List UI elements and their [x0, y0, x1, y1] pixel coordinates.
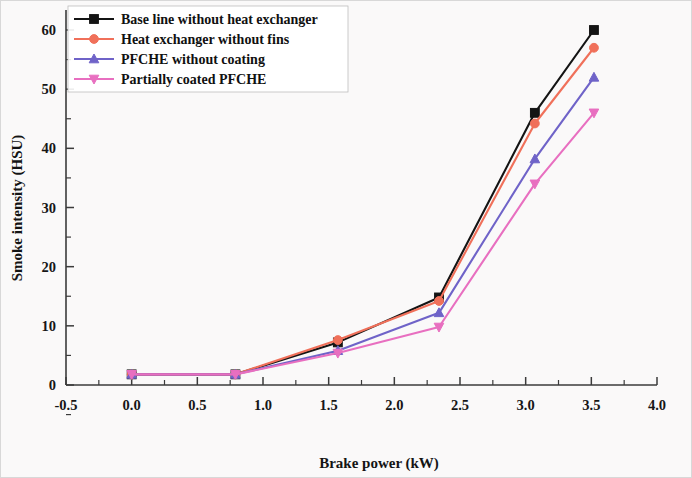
y-tick-label: 0	[49, 377, 56, 393]
x-tick-label: 3.5	[582, 397, 600, 413]
y-tick-label: 40	[42, 140, 57, 156]
smoke-intensity-line-chart: -0.50.00.51.01.52.02.53.03.54.0010203040…	[0, 0, 692, 478]
y-tick-label: 10	[42, 318, 57, 334]
data-point-marker	[590, 43, 599, 52]
y-tick-label: 30	[42, 200, 57, 216]
data-point-marker	[530, 108, 539, 117]
x-tick-label: 0.0	[123, 397, 141, 413]
legend-entry-label: Heat exchanger without fins	[121, 32, 290, 47]
x-tick-label: 1.5	[320, 397, 338, 413]
legend-entry-label: Partially coated PFCHE	[121, 72, 266, 87]
legend-swatch-marker	[90, 15, 99, 24]
y-axis-title: Smoke intensity (HSU)	[9, 135, 26, 282]
legend-swatch-marker	[90, 35, 99, 44]
data-point-marker	[333, 336, 342, 345]
x-tick-label: 3.0	[517, 397, 535, 413]
y-tick-label: 20	[42, 259, 57, 275]
x-tick-label: 4.0	[648, 397, 666, 413]
x-tick-label: 1.0	[254, 397, 272, 413]
chart-legend: Base line without heat exchangerHeat exc…	[68, 6, 348, 92]
y-tick-label: 50	[42, 81, 57, 97]
data-point-marker	[530, 119, 539, 128]
legend-entry-label: Base line without heat exchanger	[121, 12, 318, 27]
x-tick-label: -0.5	[55, 397, 78, 413]
figure-canvas: -0.50.00.51.01.52.02.53.03.54.0010203040…	[0, 0, 692, 478]
data-point-marker	[435, 297, 444, 306]
data-point-marker	[590, 26, 599, 35]
x-tick-label: 0.5	[188, 397, 206, 413]
x-axis-title: Brake power (kW)	[319, 455, 439, 472]
y-tick-label: 60	[42, 22, 57, 38]
x-tick-label: 2.5	[451, 397, 469, 413]
legend-entry-label: PFCHE without coating	[121, 52, 265, 67]
x-tick-label: 2.0	[385, 397, 403, 413]
